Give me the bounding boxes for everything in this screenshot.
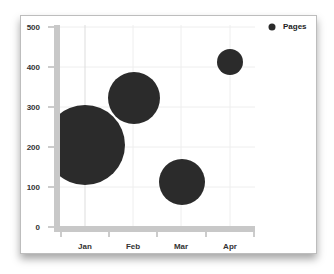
y-tick-label: 300 bbox=[27, 103, 41, 112]
bubbles bbox=[45, 49, 243, 205]
x-tick-marks bbox=[61, 232, 254, 237]
legend[interactable]: Pages bbox=[269, 22, 308, 31]
x-tick-label-apr: Apr bbox=[223, 242, 237, 251]
y-tick-label: 0 bbox=[36, 223, 41, 232]
y-tick-label: 500 bbox=[27, 23, 41, 32]
x-tick-label-mar: Mar bbox=[174, 242, 188, 251]
legend-label: Pages bbox=[283, 22, 307, 31]
x-tick-label-jan: Jan bbox=[78, 242, 92, 251]
y-tick-label: 100 bbox=[27, 183, 41, 192]
y-tick-label: 200 bbox=[27, 143, 41, 152]
x-axis bbox=[54, 226, 255, 232]
x-tick-labels: Jan Feb Mar Apr bbox=[78, 242, 237, 251]
y-tick-marks bbox=[48, 27, 54, 227]
legend-marker-icon bbox=[269, 24, 276, 31]
y-axis bbox=[54, 25, 60, 230]
y-tick-labels: 500 400 300 200 100 0 bbox=[27, 23, 41, 232]
y-tick-label: 400 bbox=[27, 63, 41, 72]
bubble-mar[interactable] bbox=[159, 159, 205, 205]
x-tick-label-feb: Feb bbox=[126, 242, 140, 251]
bubble-feb[interactable] bbox=[108, 72, 160, 124]
bubble-apr[interactable] bbox=[217, 49, 243, 75]
bubble-chart: 500 400 300 200 100 0 Jan Feb Mar Apr Pa… bbox=[0, 0, 334, 274]
